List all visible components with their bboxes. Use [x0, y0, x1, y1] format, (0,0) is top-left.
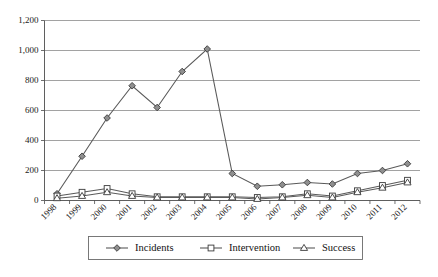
y-tick-label: 1,200: [18, 15, 39, 25]
data-point-incidents-1999: [79, 153, 86, 160]
data-point-incidents-2010: [354, 170, 361, 177]
chart-canvas: 02004006008001,0001,200 1998199920002001…: [0, 0, 438, 277]
x-tick-label: 2011: [364, 202, 384, 222]
legend-marker-intervention: [208, 245, 214, 251]
x-tick-label: 2010: [339, 201, 359, 221]
x-tick-label: 2008: [289, 201, 309, 221]
x-tick-label: 2003: [164, 201, 184, 221]
data-point-incidents-2007: [279, 181, 286, 188]
y-tick-marks: [41, 21, 45, 201]
x-tick-label: 1998: [39, 201, 59, 221]
data-point-incidents-2006: [254, 183, 261, 190]
y-tick-label: 800: [25, 75, 39, 85]
x-tick-label: 1999: [64, 201, 84, 221]
chart-legend: IncidentsInterventionSuccess: [89, 237, 363, 260]
data-point-incidents-2009: [329, 181, 336, 188]
y-tick-label: 1,000: [18, 45, 39, 55]
data-point-incidents-2005: [229, 170, 236, 177]
x-tick-label: 2007: [264, 201, 284, 221]
x-tick-label: 2005: [214, 201, 234, 221]
data-point-incidents-2012: [404, 160, 411, 167]
legend-label-incidents: Incidents: [135, 242, 174, 253]
x-tick-label: 2006: [239, 201, 259, 221]
y-tick-label: 600: [25, 105, 39, 115]
x-tick-label: 2002: [139, 202, 159, 222]
x-tick-label: 2001: [114, 202, 134, 222]
series-markers-group: [53, 46, 411, 202]
data-point-incidents-2008: [304, 179, 311, 186]
line-chart: 02004006008001,0001,200 1998199920002001…: [0, 0, 438, 277]
gridlines-group: [45, 21, 421, 171]
x-tick-label: 2004: [189, 201, 209, 221]
data-point-incidents-2011: [379, 167, 386, 174]
legend-label-success: Success: [322, 242, 355, 253]
y-axis-tick-labels: 02004006008001,0001,200: [18, 15, 39, 205]
x-axis-tick-labels: 1998199920002001200220032004200520062007…: [39, 201, 409, 221]
y-tick-label: 400: [25, 135, 39, 145]
legend-label-intervention: Intervention: [229, 242, 281, 253]
x-tick-label: 2009: [314, 201, 334, 221]
x-tick-label: 2012: [389, 202, 409, 222]
y-tick-label: 200: [25, 165, 39, 175]
x-tick-label: 2000: [89, 201, 109, 221]
y-tick-label: 0: [34, 195, 39, 205]
